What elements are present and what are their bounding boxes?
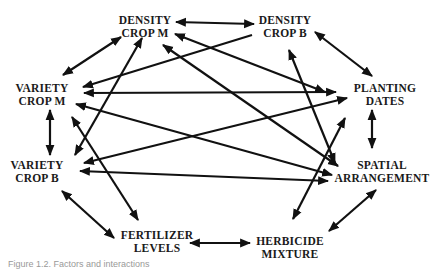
node-fertilizer: FERTILIZERLEVELS [121, 229, 194, 255]
node-label-line1: VARIETY [16, 82, 69, 95]
node-variety-b: VARIETYCROP B [11, 159, 64, 185]
node-label-line2: ARRANGEMENT [335, 172, 430, 185]
node-label-line1: PLANTING [354, 82, 416, 95]
node-label-line1: DENSITY [259, 14, 312, 27]
node-herbicide: HERBICIDEMIXTURE [256, 235, 324, 261]
node-spatial: SPATIALARRANGEMENT [335, 159, 430, 185]
edge-density_m-density_b [176, 22, 254, 24]
node-label-line2: DATES [354, 95, 416, 108]
edges-layer [50, 22, 376, 243]
edge-variety_b-spatial [80, 171, 328, 181]
edge-density_m-variety_m [63, 37, 121, 75]
node-density-m: DENSITYCROP M [119, 14, 172, 40]
node-label-line2: LEVELS [121, 242, 194, 255]
edge-variety_b-fertilizer [62, 191, 114, 238]
node-label-line1: FERTILIZER [121, 229, 194, 242]
node-label-line2: CROP M [119, 27, 172, 40]
edge-density_b-planting [315, 32, 372, 76]
edge-density_b-spatial [289, 50, 335, 163]
node-label-line2: CROP B [11, 172, 64, 185]
figure-caption: Figure 1.2. Factors and interactions [8, 259, 150, 269]
node-label-line1: SPATIAL [335, 159, 430, 172]
edge-variety_b-planting [84, 98, 347, 163]
node-label-line2: MIXTURE [256, 248, 324, 261]
edge-variety_m-spatial [76, 104, 332, 175]
edge-spatial-herbicide [329, 190, 376, 231]
edge-density_b-variety_m [83, 35, 252, 87]
node-planting: PLANTINGDATES [354, 82, 416, 108]
edge-variety_m-fertilizer [72, 117, 138, 220]
node-label-line2: CROP B [259, 27, 312, 40]
node-density-b: DENSITYCROP B [259, 14, 312, 40]
edge-variety_m-planting [84, 92, 336, 93]
node-label-line1: VARIETY [11, 159, 64, 172]
node-label-line2: CROP M [16, 95, 69, 108]
node-label-line1: DENSITY [119, 14, 172, 27]
node-label-line1: HERBICIDE [256, 235, 324, 248]
node-variety-m: VARIETYCROP M [16, 82, 69, 108]
